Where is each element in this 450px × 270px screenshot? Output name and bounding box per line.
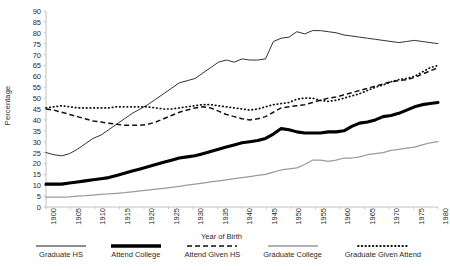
x-tick-label: 1950 — [294, 208, 303, 225]
y-tick-label: 90 — [33, 7, 41, 16]
y-tick-label: 10 — [33, 181, 41, 190]
y-tick-label: 5 — [37, 192, 41, 201]
legend-swatch-icon — [110, 243, 162, 249]
y-tick-label: 35 — [33, 126, 41, 135]
x-tick-label: 1970 — [392, 208, 401, 225]
x-tick-label: 1960 — [343, 208, 352, 225]
y-tick-label: 45 — [33, 105, 41, 114]
x-tick-label: 1975 — [417, 208, 426, 225]
y-tick-label: 40 — [33, 115, 41, 124]
legend-item-graduate-college[interactable]: Graduate College — [262, 243, 323, 259]
legend-item-graduate-given-attend[interactable]: Graduate Given Attend — [344, 243, 422, 259]
chart-svg — [46, 11, 438, 207]
legend-item-attend-college[interactable]: Attend College — [109, 243, 163, 259]
series-line-graduate-college — [46, 142, 438, 198]
legend-item-graduate-hs[interactable]: Graduate HS — [34, 243, 88, 259]
y-tick-label: 0 — [37, 203, 41, 212]
y-tick-label: 20 — [33, 159, 41, 168]
legend-swatch-icon — [186, 243, 238, 249]
x-tick-label: 1945 — [270, 208, 279, 225]
y-tick-label: 65 — [33, 61, 41, 70]
series-line-attend-college — [46, 102, 438, 184]
y-tick-label: 80 — [33, 28, 41, 37]
y-axis-tick-labels: 051015202530354045505560657075808590 — [16, 0, 44, 212]
series-line-graduate-given-attend — [46, 65, 438, 110]
x-tick-label: 1925 — [172, 208, 181, 225]
x-tick-label: 1915 — [123, 208, 132, 225]
y-tick-label: 70 — [33, 50, 41, 59]
legend-label: Attend Given HS — [185, 250, 241, 259]
y-tick-label: 60 — [33, 72, 41, 81]
x-tick-label: 1900 — [49, 208, 58, 225]
x-tick-label: 1905 — [74, 208, 83, 225]
y-tick-label: 30 — [33, 137, 41, 146]
y-tick-label: 25 — [33, 148, 41, 157]
x-tick-label: 1930 — [196, 208, 205, 225]
legend-label: Graduate College — [263, 250, 322, 259]
x-tick-label: 1910 — [98, 208, 107, 225]
series-line-graduate-hs — [46, 31, 438, 156]
legend-item-attend-given-hs[interactable]: Attend Given HS — [184, 243, 242, 259]
legend-swatch-icon — [267, 243, 319, 249]
legend-label: Graduate HS — [39, 250, 83, 259]
x-tick-label: 1940 — [245, 208, 254, 225]
plot-area — [46, 11, 438, 207]
y-tick-label: 50 — [33, 94, 41, 103]
legend-swatch-icon — [35, 243, 87, 249]
x-tick-label: 1980 — [441, 208, 450, 225]
x-axis-tick-labels: 1900190519101915192019251930193519401945… — [46, 208, 438, 234]
y-axis-title: Percentage — [0, 0, 16, 210]
x-tick-label: 1920 — [147, 208, 156, 225]
y-tick-label: 85 — [33, 17, 41, 26]
chart-legend: Graduate HSAttend CollegeAttend Given HS… — [34, 243, 422, 267]
legend-label: Graduate Given Attend — [345, 250, 421, 259]
y-tick-label: 15 — [33, 170, 41, 179]
x-tick-label: 1935 — [221, 208, 230, 225]
x-tick-label: 1965 — [368, 208, 377, 225]
x-tick-label: 1955 — [319, 208, 328, 225]
y-axis-title-text: Percentage — [4, 85, 13, 124]
y-tick-label: 75 — [33, 39, 41, 48]
legend-swatch-icon — [357, 243, 409, 249]
series-lines — [46, 31, 438, 198]
y-tick-label: 55 — [33, 83, 41, 92]
legend-label: Attend College — [111, 250, 160, 259]
x-axis-title: Year of Birth — [0, 232, 443, 241]
